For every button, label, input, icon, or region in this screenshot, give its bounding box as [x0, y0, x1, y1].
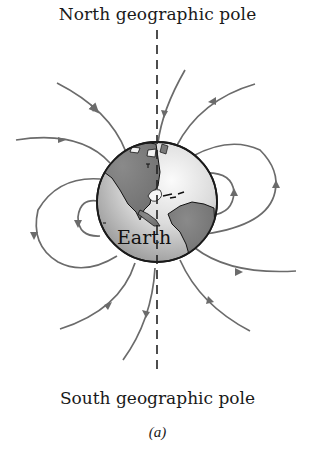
arrow-icon [235, 268, 243, 276]
field-line-top-left-1 [57, 83, 126, 152]
earth-magnetic-field-diagram: Earth [0, 0, 315, 454]
arrow-icon [206, 296, 214, 304]
figure-caption: (a) [0, 424, 315, 441]
field-line-bottom-left-1 [60, 263, 135, 329]
field-line-top-left-2 [16, 138, 110, 163]
arrow-icon [230, 188, 238, 196]
arrow-icon [272, 180, 280, 188]
arrow-icon [90, 104, 96, 112]
arrow-icon [58, 137, 66, 143]
arrow-icon [161, 110, 168, 118]
field-line-bottom-left-2 [123, 268, 155, 360]
arrow-icon [74, 220, 82, 228]
earth-label: Earth [117, 226, 171, 248]
south-pole-label: South geographic pole [0, 388, 315, 408]
field-line-top-right [176, 84, 255, 147]
arrow-icon [142, 310, 150, 318]
field-line-bottom-right-1 [195, 248, 296, 272]
field-line-top-center [158, 70, 185, 143]
